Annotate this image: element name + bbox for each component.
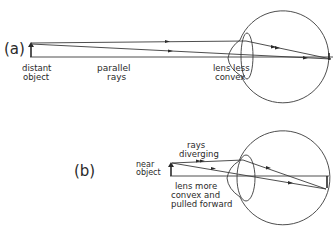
panel-b-tag: (b) bbox=[74, 162, 95, 180]
distant-object-label: distant object bbox=[22, 63, 54, 82]
eyeball-b bbox=[227, 131, 330, 225]
rays-diverging-label: rays diverging bbox=[179, 140, 219, 159]
panel-a-tag: (a) bbox=[4, 40, 25, 58]
lens-more-convex bbox=[237, 155, 255, 201]
accommodation-diagram: (a) distant object bbox=[0, 0, 333, 231]
panel-a: (a) distant object bbox=[4, 11, 333, 103]
parallel-rays-label: parallel rays bbox=[97, 63, 133, 82]
lens-more-convex-label: lens more convex and pulled forward bbox=[171, 181, 232, 209]
near-object-arrow-icon bbox=[168, 162, 174, 176]
panel-b: (b) rays diverging bbox=[74, 131, 330, 225]
near-object-label: near object bbox=[136, 160, 161, 177]
